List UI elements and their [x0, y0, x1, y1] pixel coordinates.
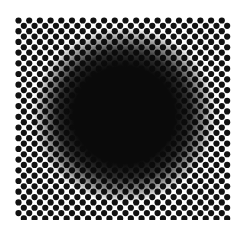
- halftone-dot: [224, 151, 230, 157]
- halftone-dot: [74, 205, 80, 211]
- halftone-dot: [42, 33, 48, 39]
- halftone-dot: [219, 71, 225, 77]
- halftone-dot: [197, 39, 203, 45]
- halftone-dot: [42, 23, 48, 29]
- halftone-dot: [37, 167, 43, 173]
- halftone-dot: [208, 199, 214, 205]
- halftone-dot: [101, 210, 107, 216]
- halftone-dot: [64, 23, 70, 29]
- halftone-dot: [21, 23, 27, 29]
- halftone-dot: [213, 44, 219, 50]
- halftone-dot: [213, 140, 219, 146]
- halftone-dot: [176, 189, 182, 195]
- halftone-dot: [42, 194, 48, 200]
- halftone-dot: [21, 162, 27, 168]
- halftone-dot: [197, 210, 203, 216]
- halftone-dot: [21, 33, 27, 39]
- halftone-dot: [208, 50, 214, 56]
- halftone-dot: [21, 173, 27, 179]
- halftone-dot: [197, 50, 203, 56]
- halftone-dot: [37, 50, 43, 56]
- halftone-dot: [160, 205, 166, 211]
- halftone-dot: [15, 146, 21, 152]
- halftone-dot: [15, 199, 21, 205]
- halftone-dot: [37, 157, 43, 163]
- halftone-dot: [21, 66, 27, 72]
- halftone-dot: [21, 151, 27, 157]
- halftone-dot: [58, 17, 64, 23]
- halftone-dot: [219, 189, 225, 195]
- halftone-dot: [26, 124, 32, 130]
- halftone-dot: [96, 205, 102, 211]
- halftone-dot: [26, 167, 32, 173]
- halftone-dot: [203, 44, 209, 50]
- halftone-dot: [31, 44, 37, 50]
- halftone-dot: [31, 173, 37, 179]
- halftone-dot: [26, 146, 32, 152]
- halftone-dot: [197, 199, 203, 205]
- halftone-dot: [37, 28, 43, 34]
- halftone-dot: [21, 194, 27, 200]
- halftone-dot: [53, 205, 59, 211]
- halftone-dot: [149, 23, 155, 29]
- halftone-dot: [90, 17, 96, 23]
- halftone-dot: [48, 28, 54, 34]
- halftone-dot: [181, 33, 187, 39]
- halftone-dot: [42, 183, 48, 189]
- halftone-dot: [224, 205, 230, 211]
- halftone-dot: [208, 17, 214, 23]
- halftone-dot: [213, 76, 219, 82]
- halftone-dot: [15, 167, 21, 173]
- halftone-dot: [213, 87, 219, 93]
- halftone-dot: [69, 28, 75, 34]
- halftone-dot: [176, 17, 182, 23]
- halftone-dot: [181, 194, 187, 200]
- halftone-dot: [176, 199, 182, 205]
- halftone-dot: [48, 210, 54, 216]
- halftone-dot: [58, 199, 64, 205]
- halftone-dot: [138, 205, 144, 211]
- halftone-dot: [197, 28, 203, 34]
- halftone-dot: [37, 39, 43, 45]
- halftone-dot: [219, 39, 225, 45]
- halftone-dot: [31, 194, 37, 200]
- halftone-dot: [192, 33, 198, 39]
- halftone-dot: [171, 23, 177, 29]
- halftone-dot: [224, 183, 230, 189]
- halftone-dot: [213, 151, 219, 157]
- halftone-dot: [208, 39, 214, 45]
- halftone-dot: [219, 146, 225, 152]
- halftone-dot: [203, 205, 209, 211]
- halftone-dot: [26, 178, 32, 184]
- halftone-dot: [90, 210, 96, 216]
- halftone-dot: [208, 28, 214, 34]
- halftone-dot: [26, 60, 32, 66]
- halftone-dot: [192, 44, 198, 50]
- halftone-dot: [21, 140, 27, 146]
- halftone-dot: [15, 103, 21, 109]
- halftone-dot: [74, 23, 80, 29]
- halftone-dot: [219, 82, 225, 88]
- halftone-dot: [144, 17, 150, 23]
- halftone-dot: [213, 23, 219, 29]
- halftone-dot: [192, 173, 198, 179]
- halftone-dot: [208, 189, 214, 195]
- halftone-dot: [117, 205, 123, 211]
- halftone-dot: [85, 23, 91, 29]
- halftone-dot: [15, 124, 21, 130]
- halftone-dot: [213, 173, 219, 179]
- halftone-dot: [187, 28, 193, 34]
- halftone-dot: [181, 23, 187, 29]
- halftone-dot: [15, 178, 21, 184]
- halftone-dot: [21, 98, 27, 104]
- halftone-dot: [37, 210, 43, 216]
- halftone-dot: [213, 66, 219, 72]
- halftone-dot: [192, 183, 198, 189]
- halftone-dot: [53, 44, 59, 50]
- halftone-dot: [208, 210, 214, 216]
- halftone-dot: [31, 162, 37, 168]
- halftone-dot: [219, 210, 225, 216]
- halftone-dot: [42, 44, 48, 50]
- halftone-dot: [224, 119, 230, 125]
- halftone-dot: [224, 162, 230, 168]
